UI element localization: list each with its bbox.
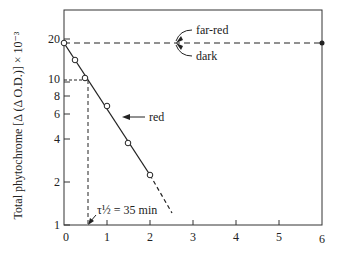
y-tick-labels: 1 2 4 6 8 10 20 xyxy=(48,32,60,232)
halflife-label: τ½ = 35 min xyxy=(97,203,157,217)
svg-text:6: 6 xyxy=(54,107,60,121)
svg-text:10: 10 xyxy=(48,72,60,86)
x-axis xyxy=(107,220,279,225)
svg-text:6: 6 xyxy=(319,232,325,246)
chart: 1 2 4 6 8 10 20 0 1 2 3 4 5 6 xyxy=(0,0,341,255)
plot-frame xyxy=(64,10,322,225)
svg-text:3: 3 xyxy=(190,230,196,244)
svg-text:2: 2 xyxy=(147,230,153,244)
red-label: red xyxy=(149,110,164,124)
svg-text:8: 8 xyxy=(54,89,60,103)
dark-label: dark xyxy=(196,49,217,63)
y-axis-label: Total phytochrome [Δ (Δ O.D.)] × 10⁻³ xyxy=(11,16,26,236)
svg-text:4: 4 xyxy=(54,132,60,146)
svg-text:4: 4 xyxy=(233,230,239,244)
svg-text:0: 0 xyxy=(63,230,69,244)
y-axis xyxy=(64,39,70,225)
svg-text:2: 2 xyxy=(54,175,60,189)
svg-text:5: 5 xyxy=(276,230,282,244)
far-red-label: far-red xyxy=(196,23,228,37)
svg-text:1: 1 xyxy=(54,218,60,232)
arrowhead-icon xyxy=(122,114,130,120)
svg-text:20: 20 xyxy=(48,32,60,46)
x-tick-labels: 0 1 2 3 4 5 6 xyxy=(63,230,325,246)
svg-text:1: 1 xyxy=(104,230,110,244)
endpoint-marker xyxy=(320,41,325,46)
